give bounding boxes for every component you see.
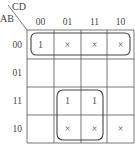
row-header-10: 10 <box>2 124 22 134</box>
col-header-11: 11 <box>81 17 108 27</box>
cell-11-11: 1 <box>81 96 108 106</box>
cell-00-01: × <box>54 40 81 50</box>
cell-00-00: 1 <box>27 40 54 50</box>
cell-10-01: × <box>54 124 81 134</box>
col-header-10: 10 <box>107 17 134 27</box>
col-variable-label: CD <box>12 2 26 12</box>
col-header-00: 00 <box>27 17 54 27</box>
col-header-01: 01 <box>54 17 81 27</box>
cell-10-11: × <box>81 124 108 134</box>
row-variable-label: AB <box>0 14 14 24</box>
cell-00-11: × <box>81 40 108 50</box>
row-header-00: 00 <box>2 40 22 50</box>
row-header-11: 11 <box>2 96 22 106</box>
cell-00-10: × <box>107 40 134 50</box>
cell-11-01: 1 <box>54 96 81 106</box>
cell-10-10: × <box>107 124 134 134</box>
row-header-01: 01 <box>2 68 22 78</box>
